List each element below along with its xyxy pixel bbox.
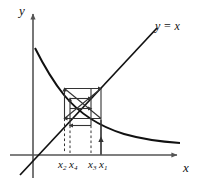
- identity-line-label: y = x: [155, 20, 180, 32]
- x-tick-label-x2: x2: [58, 159, 66, 170]
- x-tick-x4-sub: 4: [74, 164, 78, 172]
- decreasing-curve: [35, 48, 180, 143]
- cobweb-diagram-figure: y x y = x x2 x4 x3 x1: [0, 0, 205, 189]
- x-axis-label: x: [183, 161, 189, 174]
- x-tick-label-x3: x3: [88, 159, 96, 170]
- identity-line: [20, 28, 157, 175]
- y-axis-label: y: [19, 4, 25, 17]
- x-tick-x1-sub: 1: [104, 164, 108, 172]
- x-tick-x3-sub: 3: [93, 164, 97, 172]
- x-tick-label-x4: x4: [69, 159, 77, 170]
- iterate-arrow-x1: [98, 137, 103, 143]
- x-tick-x2-sub: 2: [63, 164, 67, 172]
- x-tick-label-x1: x1: [99, 159, 107, 170]
